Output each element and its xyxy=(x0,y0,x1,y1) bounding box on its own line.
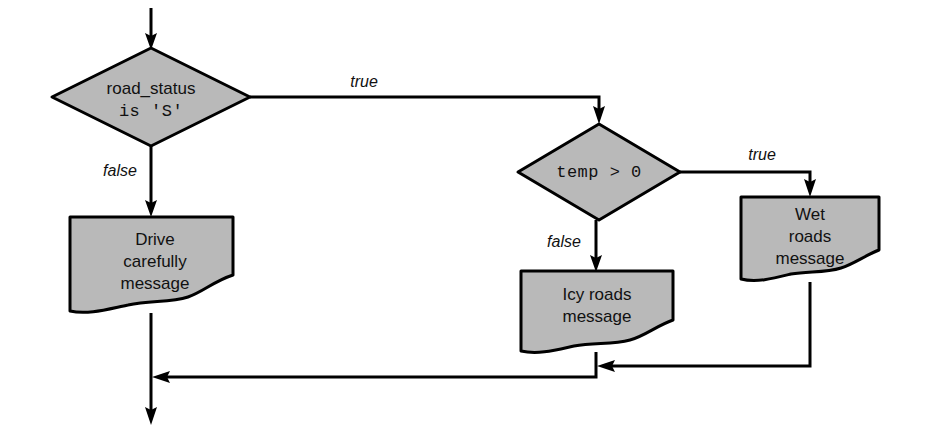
node-output-drive-carefully[interactable]: Drive carefully message xyxy=(70,217,233,312)
decision-road-status-line1: road_status xyxy=(107,79,196,98)
edge-label-road-status-true: true xyxy=(350,73,378,90)
decision-road-status-line2: is 'S' xyxy=(119,102,183,121)
connector-icy-roads-merge xyxy=(152,352,596,383)
node-output-wet-roads[interactable]: Wet roads message xyxy=(741,197,879,280)
output-icy-roads-line1: Icy roads xyxy=(563,285,632,304)
output-wet-roads-line1: Wet xyxy=(795,205,825,224)
connector-road-status-true xyxy=(250,97,605,124)
decision-temp-line1: temp > 0 xyxy=(556,163,642,182)
node-output-icy-roads[interactable]: Icy roads message xyxy=(521,271,673,352)
connector-entry xyxy=(145,8,157,50)
output-drive-carefully-line1: Drive xyxy=(135,230,175,249)
output-drive-carefully-line2: carefully xyxy=(123,252,187,271)
output-icy-roads-line2: message xyxy=(563,307,632,326)
output-wet-roads-line3: message xyxy=(776,249,845,268)
edge-label-road-status-false: false xyxy=(103,162,137,179)
node-decision-road-status[interactable]: road_status is 'S' xyxy=(52,48,250,146)
connector-road-status-false xyxy=(145,146,157,217)
flowchart-canvas: road_status is 'S' temp > 0 Drive carefu… xyxy=(0,0,947,433)
flowchart-svg: road_status is 'S' temp > 0 Drive carefu… xyxy=(0,0,947,433)
connector-temp-false xyxy=(590,220,602,272)
output-drive-carefully-line3: message xyxy=(121,274,190,293)
node-decision-temp[interactable]: temp > 0 xyxy=(518,124,680,220)
connector-temp-true xyxy=(680,172,816,197)
edge-label-temp-true: true xyxy=(748,146,776,163)
output-wet-roads-line2: roads xyxy=(789,227,832,246)
edge-label-temp-false: false xyxy=(547,233,581,250)
connector-main-trunk xyxy=(145,313,157,425)
